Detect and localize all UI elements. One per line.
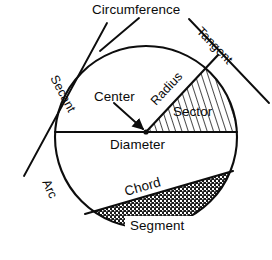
label-center: Center [94,89,135,104]
circle-parts-diagram: Circumference Secant Tangent Radius Cent… [0,0,272,260]
label-secant: Secant [47,73,78,115]
diagram-canvas: Circumference Secant Tangent Radius Cent… [0,0,272,260]
label-circumference: Circumference [92,2,180,17]
center-point [143,129,148,134]
center-arrow [114,103,143,129]
label-diameter: Diameter [110,137,166,152]
label-segment-group: Segment [125,216,196,234]
label-sector: Sector [173,104,213,119]
label-arc: Arc [39,177,60,200]
label-segment: Segment [130,218,184,233]
label-tangent: Tangent [194,24,236,67]
